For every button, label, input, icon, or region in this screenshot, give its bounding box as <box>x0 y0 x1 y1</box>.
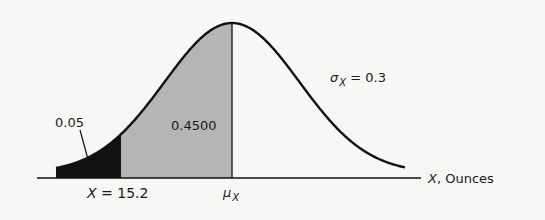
sigma-value: = 0.3 <box>346 70 386 85</box>
sigma-symbol: σ <box>330 70 338 85</box>
x-axis-label: X, Ounces <box>428 172 494 185</box>
sigma-label: σX = 0.3 <box>330 71 386 84</box>
mean-subscript: X <box>232 192 239 203</box>
tail-area-label: 0.05 <box>55 116 84 129</box>
x-axis-variable: X <box>428 171 437 186</box>
x-axis-unit: , Ounces <box>437 171 494 186</box>
mean-symbol: μ <box>223 185 231 200</box>
cutoff-label: X = 15.2 <box>87 186 148 200</box>
cutoff-value: = 15.2 <box>97 185 149 201</box>
middle-shaded-region <box>121 23 232 178</box>
sigma-subscript: X <box>339 77 346 88</box>
middle-area-label: 0.4500 <box>171 119 217 132</box>
normal-distribution-figure: 0.05 0.4500 σX = 0.3 X = 15.2 μX X, Ounc… <box>0 0 545 220</box>
mean-label: μX <box>223 186 239 199</box>
cutoff-variable: X <box>87 185 97 201</box>
normal-curve-plot <box>0 0 545 220</box>
